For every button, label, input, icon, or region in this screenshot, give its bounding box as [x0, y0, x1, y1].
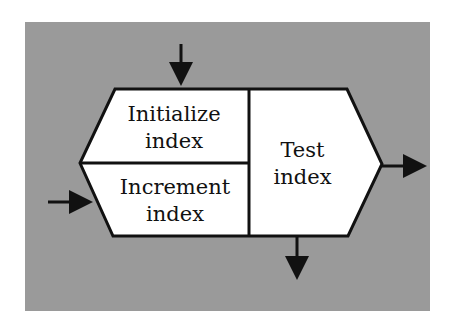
label-line: Increment [110, 174, 240, 201]
test-index-label: Test index [255, 137, 350, 191]
label-line: index [255, 164, 350, 191]
flow-shape [0, 0, 454, 324]
label-line: index [110, 201, 240, 228]
label-line: index [115, 128, 233, 155]
increment-index-label: Increment index [110, 174, 240, 228]
initialize-index-label: Initialize index [115, 101, 233, 155]
label-line: Test [255, 137, 350, 164]
label-line: Initialize [115, 101, 233, 128]
